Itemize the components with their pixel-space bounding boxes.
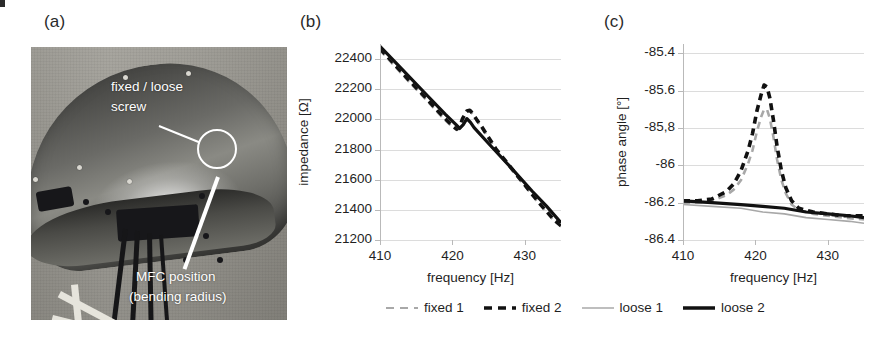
x-axis-tick-label: 410	[653, 248, 713, 263]
grid-line-y	[380, 240, 561, 241]
y-axis-tick-label: -86.2	[601, 194, 675, 209]
screw-head	[77, 165, 82, 170]
x-axis-tick-label: 420	[725, 248, 785, 263]
series-line-fixed-2	[683, 85, 864, 216]
y-axis-title: impedance [Ω]	[296, 44, 311, 240]
x-axis-title: frequency [Hz]	[712, 270, 836, 285]
figure-root: (a) fixed / loose screw MFC	[0, 0, 891, 337]
screw-head	[33, 177, 38, 182]
legend-swatch	[582, 302, 614, 314]
screw-hole	[199, 193, 205, 199]
x-axis-tick-label: 410	[350, 248, 410, 263]
figure-legend: fixed 1fixed 2loose 1loose 2	[0, 300, 891, 324]
annotation-fixed-loose-screw-line1: fixed / loose	[111, 79, 183, 95]
legend-label: fixed 1	[424, 300, 464, 315]
screw-hole	[105, 209, 111, 215]
screw-highlight-circle	[197, 129, 237, 169]
y-axis-tick-label: -85,8	[601, 119, 675, 134]
x-axis-tick-label: 430	[495, 248, 555, 263]
x-axis-tick	[683, 240, 684, 245]
plot-area	[683, 44, 864, 240]
x-axis-tick	[380, 240, 381, 245]
legend-item: loose 2	[683, 300, 765, 315]
legend-item: fixed 1	[386, 300, 464, 315]
screw-head	[186, 71, 191, 76]
screw-hole	[217, 257, 223, 263]
grid-line-y	[683, 240, 864, 241]
y-axis-tick-label: -86	[601, 156, 675, 171]
legend-swatch	[683, 302, 715, 314]
legend-item: fixed 2	[484, 300, 562, 315]
panel-label-a: (a)	[44, 12, 65, 32]
screw-hole	[83, 199, 89, 205]
plot-area	[380, 44, 561, 240]
x-axis-tick	[755, 240, 756, 245]
series-layer	[683, 44, 864, 240]
legend-label: loose 1	[620, 300, 664, 315]
series-line-loose-2	[683, 201, 864, 218]
y-axis-tick-label: -85.4	[601, 44, 675, 59]
x-axis-title: frequency [Hz]	[409, 270, 533, 285]
y-axis-title: phase angle [°]	[614, 44, 629, 240]
legend-items: fixed 1fixed 2loose 1loose 2	[386, 300, 785, 315]
screw-head	[127, 179, 132, 184]
panel-label-b: (b)	[300, 12, 321, 32]
x-axis-tick-label: 420	[422, 248, 482, 263]
page-edge-artifact	[0, 0, 5, 7]
annotation-mfc-position-line1: MFC position	[136, 269, 216, 285]
y-axis-line	[683, 44, 684, 240]
y-axis-line	[380, 44, 381, 240]
legend-swatch	[386, 302, 418, 314]
legend-label: fixed 2	[522, 300, 562, 315]
y-axis-tick-label: -85.6	[601, 82, 675, 97]
annotation-fixed-loose-screw-line2: screw	[111, 99, 146, 115]
screw-hole	[203, 233, 209, 239]
x-axis-tick-label: 430	[798, 248, 858, 263]
legend-item: loose 1	[582, 300, 664, 315]
legend-label: loose 2	[721, 300, 765, 315]
x-axis-tick	[828, 240, 829, 245]
x-axis-tick	[525, 240, 526, 245]
panel-a-photograph: fixed / loose screw MFC position (bendin…	[31, 47, 287, 320]
x-axis-tick	[452, 240, 453, 245]
legend-swatch	[484, 302, 516, 314]
series-layer	[380, 44, 561, 240]
shell-cutout	[116, 204, 200, 242]
y-axis-tick-label: -86.4	[601, 231, 675, 246]
panel-label-c: (c)	[604, 12, 624, 32]
